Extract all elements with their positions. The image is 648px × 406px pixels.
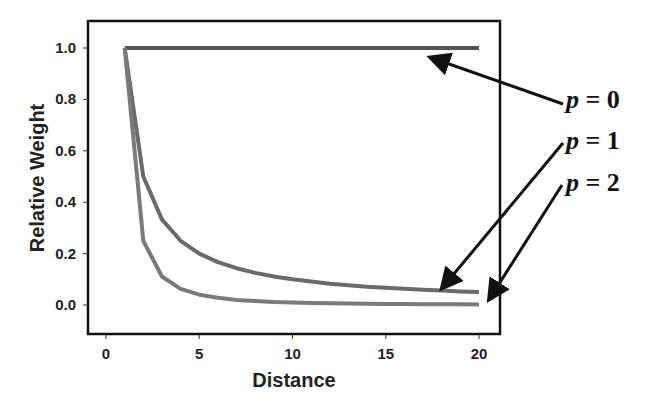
series-lines [125,48,479,304]
annotation-p2: p = 2 [564,168,620,197]
y-tick-label: 0.6 [55,142,76,159]
arrow-p1 [443,143,563,287]
annotation-arrows [432,58,563,298]
x-tick-label: 15 [377,345,394,362]
x-tick-label: 5 [195,345,203,362]
x-axis: 05101520 [102,334,488,362]
y-tick-label: 0.8 [55,90,76,107]
x-axis-title: Distance [252,369,335,391]
series-line-p2 [125,48,479,304]
annotation-p0: p = 0 [564,85,620,114]
y-tick-label: 1.0 [55,39,76,56]
x-tick-label: 20 [471,345,488,362]
y-axis: 0.00.20.40.60.81.0 [55,39,88,313]
chart: 0.00.20.40.60.81.0 05101520 Distance Rel… [0,0,648,406]
y-tick-label: 0.4 [55,193,77,210]
y-tick-label: 0.2 [55,245,76,262]
y-tick-label: 0.0 [55,296,76,313]
x-tick-label: 0 [102,345,110,362]
plot-frame [88,21,500,334]
series-line-p1 [125,48,479,292]
annotation-p1: p = 1 [564,126,620,155]
arrow-p0 [432,58,563,104]
x-tick-label: 10 [284,345,301,362]
y-axis-title: Relative Weight [26,103,48,252]
